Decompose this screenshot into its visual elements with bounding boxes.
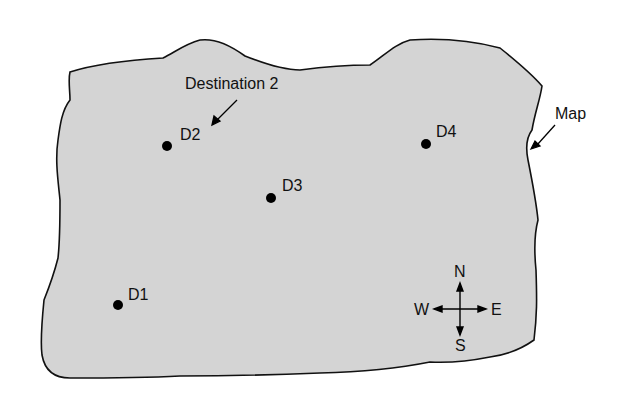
destination-d1-dot [113, 300, 123, 310]
map-canvas [0, 0, 623, 396]
map-label-arrow-icon [531, 125, 555, 149]
destination-d2-label: D2 [180, 127, 200, 143]
compass-north-label: N [454, 264, 466, 280]
compass-south-label: S [455, 338, 466, 354]
map-label: Map [555, 106, 586, 122]
destination-d3-dot [266, 193, 276, 203]
destination-d2-dot [162, 141, 172, 151]
destination-d4-label: D4 [436, 124, 456, 140]
destination-2-callout: Destination 2 [185, 76, 278, 92]
destination-d4-dot [421, 139, 431, 149]
compass-west-label: W [414, 302, 429, 318]
map-region [41, 39, 542, 378]
destination-d3-label: D3 [282, 178, 302, 194]
destination-d1-label: D1 [128, 287, 148, 303]
compass-east-label: E [491, 302, 502, 318]
